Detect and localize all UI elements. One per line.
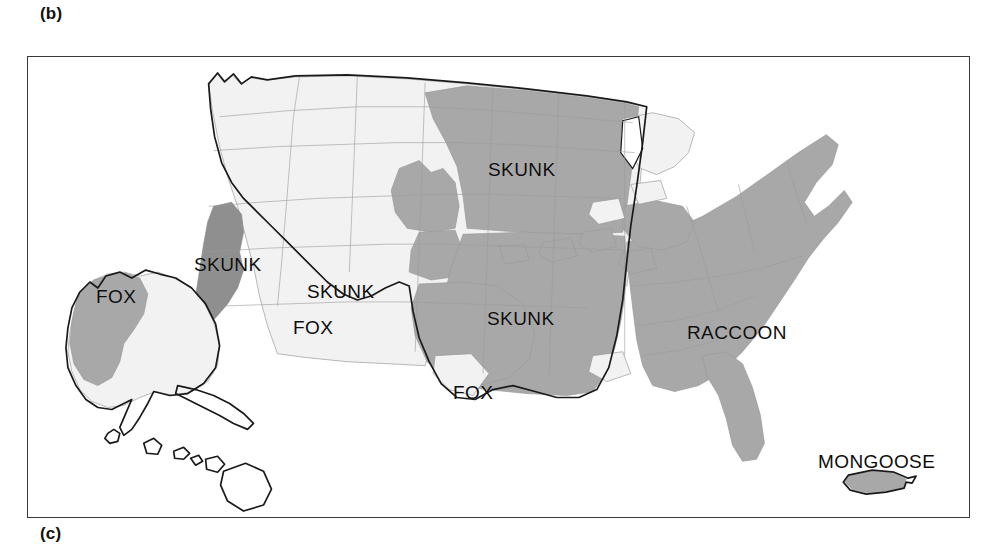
us-rabies-reservoir-map: .med { fill:#a8a8a8; stroke:#9a9a9a; str… bbox=[28, 57, 969, 517]
label-fox-arizona: FOX bbox=[293, 317, 333, 339]
label-raccoon-southeast: RACCOON bbox=[687, 322, 787, 344]
label-skunk-arizona: SKUNK bbox=[307, 281, 374, 303]
figure-panel-b: (b) .med { fill:#a8a8a8; stroke:#9a9a9a;… bbox=[0, 0, 993, 554]
label-mongoose-puerto-rico: MONGOOSE bbox=[818, 451, 935, 473]
map-frame: .med { fill:#a8a8a8; stroke:#9a9a9a; str… bbox=[27, 56, 970, 518]
label-skunk-california: SKUNK bbox=[194, 254, 261, 276]
label-fox-alaska: FOX bbox=[96, 286, 136, 308]
panel-letter-b: (b) bbox=[40, 4, 62, 24]
label-skunk-south-central: SKUNK bbox=[487, 308, 554, 330]
panel-letter-c: (c) bbox=[40, 524, 61, 544]
label-fox-texas: FOX bbox=[453, 382, 493, 404]
label-skunk-north-central: SKUNK bbox=[488, 159, 555, 181]
